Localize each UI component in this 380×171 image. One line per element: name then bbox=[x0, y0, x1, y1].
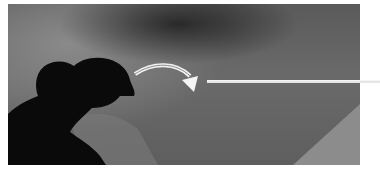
callout-leader-line bbox=[207, 80, 380, 83]
curved-arrow-icon bbox=[8, 4, 360, 165]
figure-photo bbox=[8, 4, 360, 165]
